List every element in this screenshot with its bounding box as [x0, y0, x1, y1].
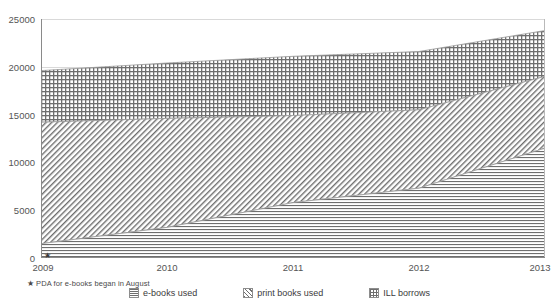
y-tick-20000: 20000 [9, 62, 35, 73]
legend-item-ill-borrows[interactable]: ILL borrows [369, 288, 430, 298]
legend-label-print-books-used: print books used [257, 288, 323, 298]
x-tick-2013: 2013 [529, 262, 550, 273]
pda-star-marker: ★ [44, 252, 51, 260]
y-tick-5000: 5000 [14, 205, 35, 216]
x-tick-2010: 2010 [156, 262, 177, 273]
y-axis-line [41, 19, 42, 258]
y-tick-15000: 15000 [9, 110, 35, 121]
x-tick-2009: 2009 [32, 262, 53, 273]
legend-label-ill-borrows: ILL borrows [383, 288, 430, 298]
legend-item-print-books-used[interactable]: print books used [243, 288, 323, 298]
plot-area [41, 19, 545, 258]
legend-label-e-books-used: e-books used [143, 288, 197, 298]
y-axis-tick-labels: 25000 20000 15000 10000 5000 0 [0, 0, 37, 304]
x-tick-2011: 2011 [283, 262, 303, 273]
x-axis-tick-labels: 2009 2010 2011 2012 2013 [0, 262, 559, 276]
legend-item-e-books-used[interactable]: e-books used [129, 288, 197, 298]
legend-swatch-ill-borrows [369, 288, 379, 298]
chart-legend: e-books used print books used ILL borrow… [0, 286, 559, 300]
y-tick-10000: 10000 [9, 157, 35, 168]
series-svg [41, 19, 545, 258]
y-tick-25000: 25000 [9, 14, 35, 25]
stacked-area-chart: 25000 20000 15000 10000 5000 0 [0, 0, 559, 304]
legend-swatch-print-books-used [243, 288, 253, 298]
plot-right-border [544, 19, 545, 258]
legend-swatch-e-books-used [129, 288, 139, 298]
x-tick-2012: 2012 [408, 262, 429, 273]
x-axis-line [41, 257, 545, 258]
